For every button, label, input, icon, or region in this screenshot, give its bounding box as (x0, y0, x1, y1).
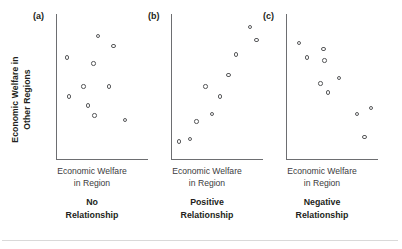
data-point (326, 90, 330, 94)
panel-b-caption-line1: Positive (151, 196, 263, 209)
panel-a-caption-line1: No (36, 196, 148, 209)
data-point (362, 135, 366, 139)
panel-c-plot-area (286, 14, 378, 160)
panel-a-x-axis-label-line1: Economic Welfare (36, 166, 148, 178)
panel-a-caption-line2: Relationship (36, 209, 148, 222)
data-point (67, 94, 71, 98)
panel-b-caption: Positive Relationship (151, 196, 263, 221)
data-point (188, 137, 192, 141)
data-point (123, 118, 127, 122)
data-point (297, 41, 301, 45)
bottom-rule (2, 240, 398, 241)
panel-b-x-axis-label-line2: in Region (151, 178, 263, 190)
data-point (369, 106, 373, 110)
panel-b-x-axis-label-line1: Economic Welfare (151, 166, 263, 178)
data-point (65, 55, 69, 59)
panel-a-plot-area (56, 14, 148, 160)
data-point (218, 94, 222, 98)
panel-a-x-axis-label: Economic Welfare in Region (36, 166, 148, 189)
data-point (81, 84, 85, 88)
panel-c-caption-line2: Relationship (266, 209, 378, 222)
y-axis-label-line2: Other Regions (21, 35, 33, 165)
data-point (177, 139, 181, 143)
panel-c: (c) Economic Welfare in Region Negative … (263, 0, 378, 249)
panel-c-caption: Negative Relationship (266, 196, 378, 221)
data-point (318, 81, 322, 85)
data-point (321, 47, 325, 51)
panel-b-caption-line2: Relationship (151, 209, 263, 222)
panel-c-x-axis-label: Economic Welfare in Region (266, 166, 378, 189)
data-point (111, 44, 115, 48)
panel-c-x-axis-label-line1: Economic Welfare (266, 166, 378, 178)
panel-c-x-axis-label-line2: in Region (266, 178, 378, 190)
panel-a-caption: No Relationship (36, 196, 148, 221)
panel-a: (a) Economic Welfare in Region No Relati… (33, 0, 148, 249)
panel-b-x-axis-label: Economic Welfare in Region (151, 166, 263, 189)
data-point (305, 55, 309, 59)
data-point (194, 119, 198, 123)
data-point (355, 112, 359, 116)
data-point (107, 84, 111, 88)
data-point (91, 61, 95, 65)
data-point (234, 52, 238, 56)
panel-a-tag: (a) (33, 10, 44, 22)
data-point (322, 58, 326, 62)
data-point (96, 34, 100, 38)
data-point (203, 84, 207, 88)
panel-c-caption-line1: Negative (266, 196, 378, 209)
panel-c-tag: (c) (263, 10, 274, 22)
data-point (248, 25, 252, 29)
data-point (226, 73, 230, 77)
data-point (254, 38, 258, 42)
panel-b-plot-area (171, 14, 263, 160)
y-axis-label-line1: Economic Welfare in (10, 35, 22, 165)
data-point (92, 113, 96, 117)
panel-b-tag: (b) (148, 10, 160, 22)
data-point (337, 76, 341, 80)
panel-a-x-axis-label-line2: in Region (36, 178, 148, 190)
y-axis-label: Economic Welfare in Other Regions (10, 35, 33, 165)
scatterplot-figure: Economic Welfare in Other Regions (a) Ec… (0, 0, 402, 249)
data-point (86, 103, 90, 107)
data-point (210, 112, 214, 116)
panel-b: (b) Economic Welfare in Region Positive … (148, 0, 263, 249)
